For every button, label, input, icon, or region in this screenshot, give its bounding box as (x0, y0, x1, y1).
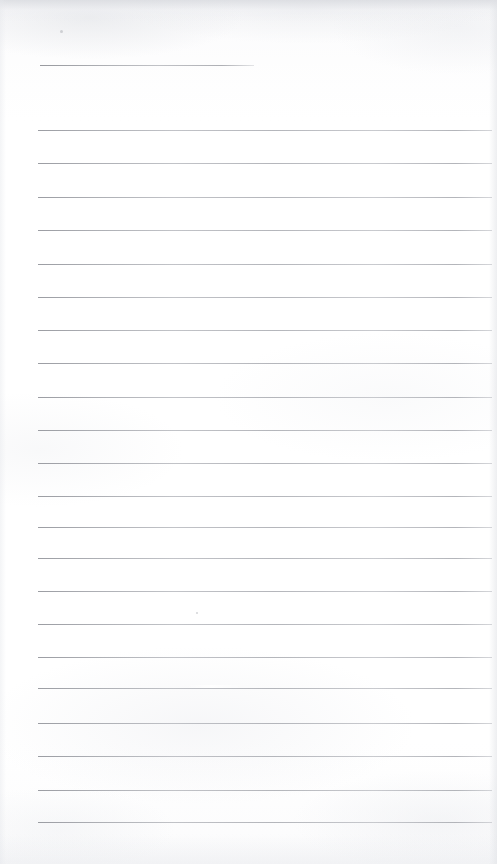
scan-bottom-edge-shadow (0, 834, 497, 864)
rule-11 (38, 463, 492, 464)
rule-17 (38, 657, 492, 658)
rule-12 (38, 496, 492, 497)
rule-21 (38, 790, 492, 791)
scan-top-shadow (0, 0, 497, 22)
rule-09 (38, 397, 492, 398)
rule-06 (38, 297, 492, 298)
rule-19 (38, 723, 492, 724)
rule-05 (38, 264, 492, 265)
rule-22 (38, 822, 492, 823)
rule-02 (38, 163, 492, 164)
rule-15 (38, 591, 492, 592)
rule-08 (38, 363, 492, 364)
scanned-page (0, 0, 497, 864)
rule-14 (38, 558, 492, 559)
rule-03 (38, 197, 492, 198)
rule-18 (38, 688, 492, 689)
speck-top (60, 30, 63, 33)
rule-13 (38, 527, 492, 528)
rule-07 (38, 330, 492, 331)
speck-mid (196, 612, 198, 614)
rule-01 (38, 130, 492, 131)
rule-16 (38, 624, 492, 625)
rule-04 (38, 230, 492, 231)
rule-10 (38, 430, 492, 431)
rule-20 (38, 756, 492, 757)
rule-header (40, 65, 254, 66)
scan-left-edge-shadow (0, 0, 6, 864)
